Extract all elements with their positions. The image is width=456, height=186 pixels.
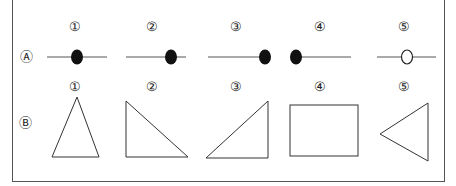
triangle-pointing-left-shape <box>380 103 428 161</box>
row-b-label: Ⓑ <box>19 115 32 130</box>
row-a-num-5: ⑤ <box>398 19 410 34</box>
row-b-num-5: ⑤ <box>398 79 410 94</box>
row-b-num-2: ② <box>146 79 158 94</box>
row-b-num-3: ③ <box>230 79 242 94</box>
row-a-num-3: ③ <box>230 19 242 34</box>
row-a-item-1 <box>47 50 107 65</box>
row-a-label: Ⓐ <box>20 49 33 64</box>
row-a-item-3 <box>208 50 271 65</box>
isosceles-triangle-shape <box>52 97 99 157</box>
row-a-num-4: ④ <box>314 19 326 34</box>
filled-dot-icon <box>290 50 302 65</box>
filled-dot-icon <box>71 50 83 65</box>
row-a-item-5 <box>377 50 436 64</box>
row-a-item-4 <box>290 50 351 65</box>
filled-dot-icon <box>165 50 177 65</box>
right-triangle-right-shape <box>206 101 268 158</box>
row-a-num-1: ① <box>69 19 81 34</box>
diagram-canvas: Ⓐ ① ② ③ ④ ⑤ Ⓑ ① ② ③ ④ ⑤ <box>0 0 456 186</box>
filled-dot-icon <box>259 50 271 65</box>
hollow-dot-icon <box>402 50 413 64</box>
row-b-num-1: ① <box>69 79 81 94</box>
rectangle-shape <box>290 105 358 156</box>
row-a-item-2 <box>126 50 186 65</box>
row-a-num-2: ② <box>146 19 158 34</box>
row-b-num-4: ④ <box>314 79 326 94</box>
right-triangle-left-shape <box>126 101 188 157</box>
